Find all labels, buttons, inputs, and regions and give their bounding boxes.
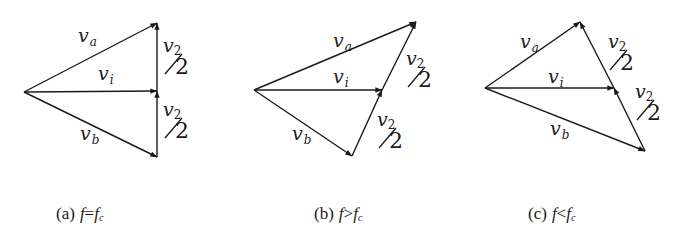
label-va: va — [78, 24, 97, 49]
label-vi: vi — [333, 65, 349, 90]
label-vi: vi — [548, 65, 564, 90]
caption-b: (b)f>fc — [314, 204, 363, 223]
label-v2-half-lower: v22 — [635, 80, 661, 125]
label-v2-half-lower: v22 — [163, 98, 189, 143]
denominator: 2 — [175, 54, 189, 79]
label-v2-half-upper: v22 — [163, 34, 189, 79]
denominator: 2 — [175, 118, 189, 143]
label-v2-half-lower: v22 — [377, 108, 403, 153]
vector-va — [485, 22, 580, 88]
denominator: 2 — [418, 67, 432, 92]
denominator: 2 — [647, 100, 661, 125]
label-v2-half-upper: v22 — [608, 30, 634, 75]
denominator: 2 — [389, 128, 403, 153]
panel-b: vavivbv22v22(b)f>fc — [254, 22, 432, 223]
label-vb: vb — [80, 122, 99, 147]
label-va: va — [520, 30, 539, 55]
label-vb: vb — [292, 122, 311, 147]
label-vi: vi — [98, 62, 114, 87]
vector-vi — [24, 91, 157, 92]
label-v2-half-upper: v22 — [406, 47, 432, 92]
panel-c: vavivbv22v22(c)f<fc — [485, 22, 661, 223]
vector-va — [24, 23, 157, 92]
label-va: va — [333, 29, 352, 54]
caption-c: (c)f<fc — [528, 204, 576, 223]
denominator: 2 — [620, 50, 634, 75]
phasor-diagram-figure: vavivbv22v22(a)f=fcvavivbv22v22(b)f>fcva… — [0, 0, 680, 236]
panel-a: vavivbv22v22(a)f=fc — [24, 23, 189, 223]
caption-a: (a)f=fc — [56, 204, 104, 223]
